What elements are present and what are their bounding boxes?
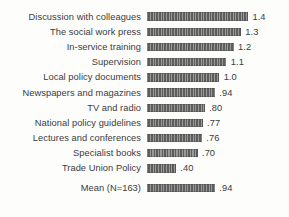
bar-track: 1.0 [147,70,289,85]
value-label: .70 [202,148,215,158]
chart-row: Discussion with colleagues1.4 [0,9,289,24]
chart-row: Trade Union Policy.40 [0,161,289,176]
bar-track: .77 [147,115,289,130]
bar-track: .94 [147,181,289,196]
bar-track: .40 [147,161,289,176]
chart-row: National policy guidelines.77 [0,115,289,130]
bar-track: .80 [147,100,289,115]
chart-row: Supervision1.1 [0,55,289,70]
bar [147,164,176,172]
bar-track: .94 [147,85,289,100]
chart-row: Lectures and conferences.76 [0,131,289,146]
bar [147,184,215,192]
chart-row: In-service training1.2 [0,39,289,54]
value-label: .94 [219,88,232,98]
value-label: 1.2 [238,42,251,52]
chart-row: Mean (N=163).94 [0,181,289,196]
category-label: Discussion with colleagues [0,12,147,22]
category-label: Newspapers and magazines [0,88,147,98]
category-label: Local policy documents [0,72,147,82]
bar-track: 1.3 [147,24,289,39]
bar [147,28,241,36]
category-label: Specialist books [0,148,147,158]
category-label: Trade Union Policy [0,163,147,173]
bar [147,134,202,142]
chart-row: Specialist books.70 [0,146,289,161]
category-label: Lectures and conferences [0,133,147,143]
value-label: 1.3 [245,27,258,37]
category-label: The social work press [0,27,147,37]
bar-track: 1.2 [147,39,289,54]
value-label: .40 [180,163,193,173]
value-label: 1.0 [224,72,237,82]
category-label: In-service training [0,42,147,52]
category-label: Supervision [0,57,147,67]
horizontal-bar-chart: Discussion with colleagues1.4The social … [0,0,289,217]
value-label: .76 [206,133,219,143]
bar [147,43,234,51]
value-label: 1.4 [253,12,266,22]
chart-row: Local policy documents1.0 [0,70,289,85]
chart-rows: Discussion with colleagues1.4The social … [0,9,289,196]
bar-track: 1.4 [147,9,289,24]
chart-row: Newspapers and magazines.94 [0,85,289,100]
value-label: 1.1 [231,57,244,67]
bar-track: .70 [147,146,289,161]
bar-track: 1.1 [147,55,289,70]
category-label: TV and radio [0,103,147,113]
bar [147,88,215,96]
value-label: .77 [207,118,220,128]
bar [147,149,198,157]
chart-row: TV and radio.80 [0,100,289,115]
value-label: .94 [219,183,232,193]
bar [147,12,248,20]
value-label: .80 [209,103,222,113]
bar [147,58,226,66]
category-label: National policy guidelines [0,118,147,128]
category-label: Mean (N=163) [0,183,147,193]
bar [147,73,219,81]
bar [147,104,205,112]
chart-row: The social work press1.3 [0,24,289,39]
bar [147,119,203,127]
bar-track: .76 [147,131,289,146]
